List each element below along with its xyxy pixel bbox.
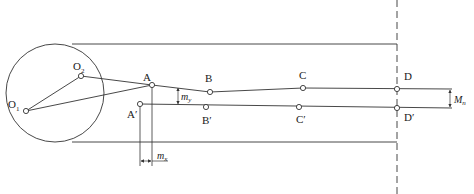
link-c-d	[303, 88, 452, 89]
label-cprime: C′	[296, 113, 306, 125]
joint-a	[149, 82, 154, 87]
label-my: my	[181, 91, 192, 104]
label-a: A	[143, 71, 151, 83]
linkage-diagram: O1 O2 A B C D A′ B′ C′ D′ my mx Mn	[0, 0, 474, 194]
label-o2: O2	[73, 60, 85, 75]
label-b: B	[205, 72, 212, 84]
joint-d	[394, 86, 399, 91]
joint-b	[207, 89, 212, 94]
label-mn: Mn	[453, 94, 466, 107]
label-c: C	[299, 69, 306, 81]
label-bprime: B′	[202, 114, 212, 126]
joint-o1	[23, 108, 28, 113]
link-b-c	[210, 88, 303, 92]
joint-aprime	[137, 101, 142, 106]
joint-dprime	[394, 105, 399, 110]
joint-bprime	[203, 104, 208, 109]
label-aprime: A′	[127, 108, 137, 120]
label-dprime: D′	[404, 111, 414, 123]
joint-c	[300, 85, 305, 90]
joint-cprime	[296, 104, 301, 109]
link-o2-a	[81, 76, 152, 85]
label-d: D	[404, 70, 412, 82]
diagram-canvas: O1 O2 A B C D A′ B′ C′ D′ my mx Mn	[0, 0, 474, 194]
